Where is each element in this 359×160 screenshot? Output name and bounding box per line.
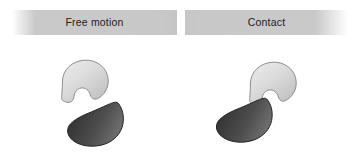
figure-container: Free motion (0, 0, 359, 160)
panel-free-motion: Free motion (0, 0, 180, 160)
dark-blob-shape (216, 98, 272, 142)
dark-blob-shape (68, 102, 124, 146)
shape-group-contact (180, 0, 359, 160)
panel-contact: Contact (180, 0, 359, 160)
shape-stage-free-motion (0, 0, 180, 160)
light-bean-shape (62, 60, 109, 102)
light-bean-shape (250, 62, 297, 104)
shape-stage-contact (180, 0, 359, 160)
shape-group-free-motion (0, 0, 180, 160)
